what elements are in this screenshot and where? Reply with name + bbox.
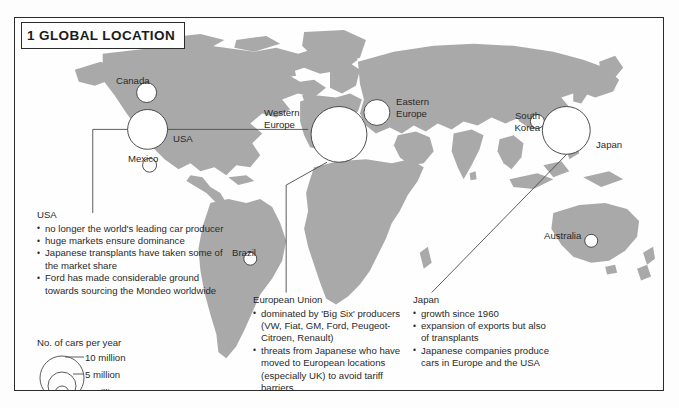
map-label-usa: USA bbox=[173, 133, 193, 145]
map-label-south-korea-line1: South bbox=[515, 110, 540, 121]
southeast-asia-land bbox=[498, 135, 524, 169]
note-japan-bullet-2: expansion of exports but also of transpl… bbox=[413, 320, 555, 345]
note-japan-bullet-3: Japanese companies produce cars in Europ… bbox=[413, 345, 555, 370]
map-label-south-korea-line2: Korea bbox=[514, 122, 540, 133]
arabia-land bbox=[394, 131, 434, 165]
map-label-mexico: Mexico bbox=[128, 153, 158, 165]
note-eu-bullet-2: threats from Japanese who have moved to … bbox=[253, 345, 405, 391]
bubble-eastern-europe bbox=[364, 100, 390, 126]
map-label-western-europe: Western Europe bbox=[264, 107, 300, 130]
note-european-union: European Union dominated by 'Big Six' pr… bbox=[253, 294, 405, 391]
map-label-eastern-europe: Eastern Europe bbox=[396, 96, 429, 119]
map-label-south-korea: South Korea bbox=[504, 110, 540, 133]
page-title: 1 GLOBAL LOCATION bbox=[27, 28, 175, 43]
figure-frame: 1 GLOBAL LOCATION Canada USA Mexico Braz… bbox=[14, 17, 664, 391]
map-label-japan: Japan bbox=[596, 139, 622, 151]
figure-title-box: 1 GLOBAL LOCATION bbox=[21, 22, 185, 49]
legend-title: No. of cars per year bbox=[37, 337, 162, 349]
legend-label-10-million: 10 million bbox=[85, 352, 126, 363]
tasmania-land bbox=[605, 265, 617, 275]
new-zealand-land bbox=[643, 247, 655, 265]
africa-land bbox=[304, 159, 424, 304]
legend-bubble-5-million bbox=[48, 372, 76, 391]
legend-bubble-1-million bbox=[55, 386, 69, 391]
legend-label-1-million: 1 million bbox=[85, 387, 120, 391]
map-label-brazil: Brazil bbox=[232, 247, 256, 259]
note-japan: Japan growth since 1960 expansion of exp… bbox=[413, 294, 555, 370]
note-usa-heading: USA bbox=[37, 209, 227, 222]
new-guinea-land bbox=[583, 171, 623, 187]
indonesia-land bbox=[509, 173, 553, 189]
note-usa-bullet-4: Ford has made considerable ground toward… bbox=[37, 272, 227, 297]
map-label-western-europe-line2: Europe bbox=[264, 119, 295, 130]
note-usa-bullets: no longer the world's leading car produc… bbox=[37, 223, 227, 297]
bubble-japan bbox=[542, 107, 590, 155]
map-label-australia: Australia bbox=[544, 230, 581, 242]
bubble-usa bbox=[128, 110, 168, 150]
note-usa-bullet-2: huge markets ensure dominance bbox=[37, 235, 227, 247]
note-eu-bullet-1: dominated by 'Big Six' producers (VW, Fi… bbox=[253, 308, 405, 345]
legend: No. of cars per year 10 million 5 millio… bbox=[37, 337, 162, 391]
new-zealand-land-south bbox=[637, 265, 651, 281]
note-usa-bullet-3: Japanese transplants have taken some of … bbox=[37, 247, 227, 272]
map-label-eastern-europe-line2: Europe bbox=[396, 108, 427, 119]
scandinavia-land bbox=[330, 62, 360, 94]
global-location-map-figure: 1 GLOBAL LOCATION Canada USA Mexico Braz… bbox=[0, 0, 679, 408]
note-eu-heading: European Union bbox=[253, 294, 405, 307]
note-japan-bullets: growth since 1960 expansion of exports b… bbox=[413, 308, 555, 370]
note-eu-bullets: dominated by 'Big Six' producers (VW, Fi… bbox=[253, 308, 405, 391]
central-america-land bbox=[186, 175, 226, 203]
note-japan-bullet-1: growth since 1960 bbox=[413, 308, 555, 320]
note-japan-heading: Japan bbox=[413, 294, 555, 307]
caribbean-land bbox=[228, 175, 254, 185]
legend-label-5-million: 5 million bbox=[85, 369, 120, 380]
bubble-australia bbox=[585, 234, 598, 247]
india-land bbox=[452, 129, 484, 179]
madagascar-land bbox=[420, 247, 432, 269]
note-usa: USA no longer the world's leading car pr… bbox=[37, 209, 227, 297]
kamchatka-land bbox=[599, 56, 623, 80]
map-label-canada: Canada bbox=[116, 75, 150, 87]
sri-lanka-land bbox=[470, 171, 477, 180]
map-label-western-europe-line1: Western bbox=[264, 107, 300, 118]
map-label-eastern-europe-line1: Eastern bbox=[396, 96, 429, 107]
bubble-western-europe bbox=[311, 107, 367, 163]
legend-body: 10 million 5 million 1 million bbox=[37, 351, 162, 391]
note-usa-bullet-1: no longer the world's leading car produc… bbox=[37, 223, 227, 235]
